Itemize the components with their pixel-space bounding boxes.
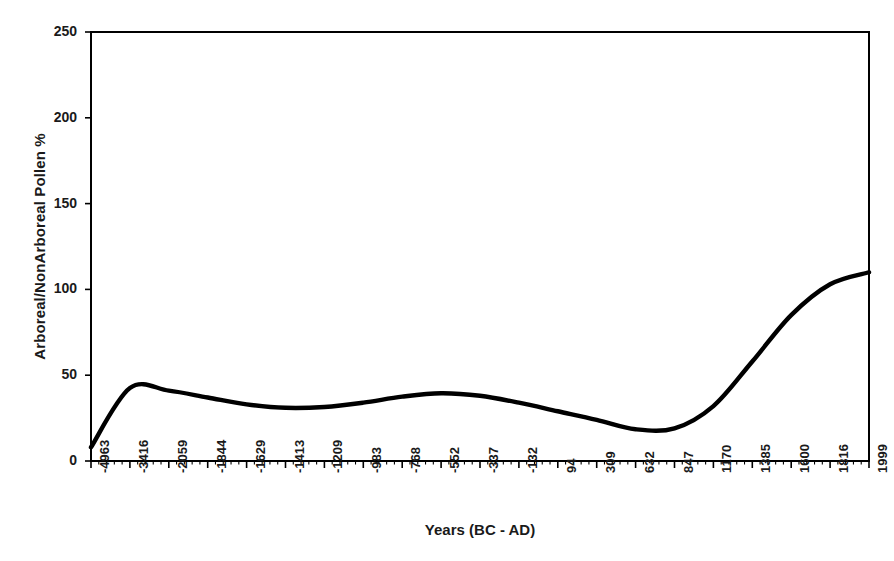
x-tick-label: -3416: [136, 440, 151, 473]
x-tick-label: -768: [408, 447, 423, 473]
y-tick-label: 50: [31, 366, 77, 382]
x-tick-label: 1600: [797, 444, 812, 473]
x-tick-label: -4963: [97, 440, 112, 473]
x-tick-label: -1844: [214, 440, 229, 473]
x-tick-label: -983: [369, 447, 384, 473]
y-tick-label: 250: [31, 23, 77, 39]
y-tick-label: 200: [31, 109, 77, 125]
x-tick-label: 1816: [836, 444, 851, 473]
x-tick-label: 632: [642, 451, 657, 473]
x-tick-label: 309: [603, 451, 618, 473]
x-tick-label: -2059: [175, 440, 190, 473]
x-tick-label: 1170: [719, 445, 734, 473]
x-tick-label: 847: [681, 451, 696, 473]
x-tick-label: -337: [486, 447, 501, 473]
x-tick-label: -1413: [292, 440, 307, 473]
x-tick-label: 94: [564, 459, 579, 473]
x-tick-label: 1385: [758, 444, 773, 473]
x-tick-label: -132: [525, 447, 540, 473]
x-tick-label: -552: [447, 447, 462, 473]
y-tick-label: 0: [31, 452, 77, 468]
x-axis-ticks: [91, 461, 869, 468]
x-axis-title: Years (BC - AD): [91, 521, 869, 538]
pollen-curve: [91, 272, 869, 447]
x-tick-label: -1209: [330, 440, 345, 473]
plot-area: [0, 0, 894, 561]
x-tick-label: 1999: [875, 444, 890, 473]
y-tick-label: 100: [31, 280, 77, 296]
x-tick-label: -1629: [253, 440, 268, 473]
pollen-line-chart: Arboreal/NonArboreal Pollen % 0501001502…: [0, 0, 894, 561]
y-tick-label: 150: [31, 195, 77, 211]
